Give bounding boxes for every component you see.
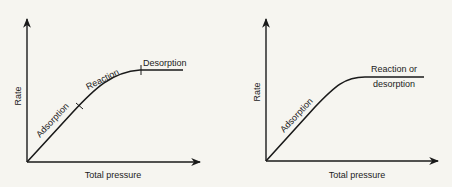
x-axis-label: Total pressure xyxy=(85,170,142,180)
y-axis-label: Rate xyxy=(13,86,23,105)
right-diagram: Rate Total pressure Adsorption Reaction … xyxy=(252,19,438,180)
segment-label-reaction-or: Reaction or xyxy=(371,64,417,74)
diagram-canvas: Rate Total pressure Adsorption Reaction … xyxy=(0,0,452,187)
segment-label-reaction: Reaction xyxy=(84,67,120,92)
x-axis-label: Total pressure xyxy=(329,170,386,180)
segment-label-adsorption: Adsorption xyxy=(278,96,315,134)
left-diagram: Rate Total pressure Adsorption Reaction … xyxy=(13,19,200,180)
segment-label-desorption: desorption xyxy=(373,79,415,89)
segment-label-desorption: Desorption xyxy=(143,58,187,68)
y-axis-label: Rate xyxy=(252,82,262,101)
